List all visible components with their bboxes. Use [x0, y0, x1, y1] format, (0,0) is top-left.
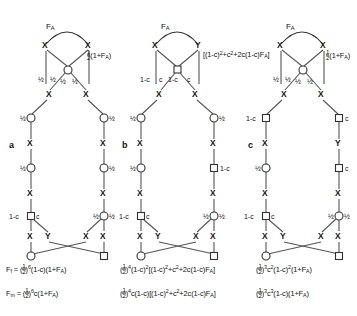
- panel-c-bottom-circle: [262, 252, 270, 260]
- panel-b-node-y-top: Y: [195, 40, 201, 50]
- panel-c-label-half-1: ½: [273, 76, 279, 83]
- panel-b-circle-right: [210, 114, 218, 122]
- panel-a-cross-x-2: X: [83, 231, 89, 241]
- panel-a-label-half-left-2: ½: [20, 165, 26, 172]
- panel-b-cross-x-3: X: [210, 231, 216, 241]
- panel-b-label-c: c: [146, 213, 150, 220]
- panel-a-label-half-lr-2: ½: [109, 213, 115, 220]
- panel-a-node-x-chain-left: X: [27, 138, 33, 148]
- panel-a-circle-left-2: [27, 164, 35, 172]
- panel-b-bottom-circle: [137, 252, 145, 260]
- panel-b-diagram: X Y X X 1-c c 1-c c ½ ½ X X ½ 1-c X: [118, 4, 248, 264]
- panel-c-label-c-right-2: c: [345, 165, 349, 172]
- panel-b-cross-y: Y: [155, 231, 161, 241]
- panel-b-node-x-chain-right: X: [210, 138, 216, 148]
- panel-a-formula-2: Fm = (12)6c(1+FA): [6, 288, 58, 299]
- panel-b-label-one-minus-c: 1-c: [119, 213, 129, 220]
- panel-a-label-half-right-2: ½: [109, 165, 115, 172]
- panel-c-label-c-right: c: [345, 115, 349, 122]
- panel-a-node-x-left: X: [42, 40, 48, 50]
- panel-b-label-half-lr-1: ½: [203, 213, 209, 220]
- panel-a-cross-x-3: X: [100, 231, 106, 241]
- panel-c-square-left-3: [263, 213, 270, 220]
- panel-a-center-circle: [64, 66, 72, 74]
- panel-b-square-left: [138, 213, 145, 220]
- panel-a-cross-y: Y: [45, 231, 51, 241]
- panel-a-edge-midright-out: [88, 100, 103, 114]
- panel-a-circle-left: [27, 114, 35, 122]
- panel-a-label-c: c: [36, 213, 40, 220]
- panel-c-label-half-lr-1: ½: [328, 213, 334, 220]
- panel-a-node-x-mid-left: X: [46, 89, 52, 99]
- panel-a-node-x-chain-right-2: X: [100, 188, 106, 198]
- panel-b-edge-midright-out: [197, 100, 213, 114]
- panel-a-edge-right-to-center: [69, 50, 88, 66]
- panel-a-label-half-3: ½: [60, 78, 66, 85]
- panel-b-node-x-chain-left: X: [137, 138, 143, 148]
- panel-a-square-left: [28, 213, 35, 220]
- panel-b-circle-left: [137, 114, 145, 122]
- panel-c-node-x-chain-left: X: [262, 138, 268, 148]
- panel-c-square-right: [336, 115, 343, 122]
- panel-c-formula-2: (12)3c3(1-c)(1+FA): [256, 288, 309, 299]
- panel-b-node-x-chain-left-2: X: [137, 188, 143, 198]
- panel-b-label-c-1: c: [159, 76, 163, 83]
- panel-b-node-x-mid-left: X: [156, 89, 162, 99]
- panel-b-label-c-2: c: [187, 76, 191, 83]
- panel-a-label-half-1: ½: [38, 76, 44, 83]
- panel-a-label-half-left: ½: [20, 115, 26, 122]
- panel-a-edge-midleft-out: [32, 100, 47, 114]
- panel-a-node-x-chain-left-2: X: [27, 188, 33, 198]
- panel-b-square-right-2: [211, 165, 218, 172]
- panel-b-formula-1: (12)4(1-c)2[(1-c)2+c2+2c(1-c)FA]: [120, 264, 215, 275]
- panel-b-label-1mc-right: 1-c: [220, 165, 230, 172]
- panel-a-node-x-chain-right: X: [100, 138, 106, 148]
- panel-b-bottom-square: [211, 253, 218, 260]
- panel-a-diagram: X X X X ½ ½ ½ ½ ½ ½ X X ½: [4, 4, 134, 264]
- panel-c-right-expression: 12(1+FA): [326, 50, 350, 61]
- panel-c-circle-right-3: [335, 212, 343, 220]
- panel-c-cross-x-2: X: [318, 231, 324, 241]
- panel-a-circle-right: [100, 114, 108, 122]
- panel-c-label-half-left-2: ½: [255, 165, 261, 172]
- panel-a-letter: a: [9, 140, 14, 150]
- panel-b-label-1mc-1: 1-c: [140, 76, 150, 83]
- panel-c-center-circle: [299, 66, 307, 74]
- panel-c-edge-left-to-center: [282, 50, 302, 66]
- panel-c-top-arc: [281, 32, 323, 44]
- panel-c-arc-label: FA: [286, 22, 295, 31]
- panel-a-arc-label: FA: [46, 22, 55, 31]
- panel-a-right-expression: 12(1+FA): [87, 50, 111, 61]
- panel-c-label-1mc-left: 1-c: [246, 115, 256, 122]
- panel-b-circle-left-2: [137, 164, 145, 172]
- panel-c-label-c: c: [271, 213, 275, 220]
- panel-c-edge-midright-out: [323, 100, 338, 114]
- panel-c-edge-right-to-center: [304, 50, 323, 66]
- panel-c-node-x-chain-left-2: X: [262, 188, 268, 198]
- panel-b-cross-x-1: X: [137, 231, 143, 241]
- panel-a-label-half-lr-1: ½: [93, 213, 99, 220]
- panel-a-top-arc: [46, 32, 88, 44]
- panel-a-bottom-square: [101, 253, 108, 260]
- panel-c-formula-1: (12)3c2(1-c)2(1+FA): [256, 264, 312, 275]
- panel-b-label-1mc-2: 1-c: [168, 76, 178, 83]
- panel-b-node-x-top: X: [152, 40, 158, 50]
- panel-c-label-half-lr-2: ½: [344, 213, 350, 220]
- panel-c-cross-x-1: X: [262, 231, 268, 241]
- panel-c-diagram: X X X X ½ ½ ½ ½ 1-c c X Y ½ c X X: [244, 4, 357, 264]
- panel-c-square-left: [263, 115, 270, 122]
- panel-b-node-x-mid-right: X: [192, 89, 198, 99]
- panel-a-circle-right-2: [100, 164, 108, 172]
- panel-b-formula-2: (12)4c(1-c)[(1-c)2+c2+2c(1-c)FA]: [120, 288, 216, 299]
- panel-b-edge-left-to-center: [157, 50, 176, 66]
- panel-b-edge-midleft-out: [142, 100, 157, 114]
- panel-c-cross-x-3: X: [335, 231, 341, 241]
- panel-b-arc-label: FA: [161, 22, 170, 31]
- panel-b-circle-right-3: [210, 212, 218, 220]
- panel-b-edge-right-to-center: [179, 50, 198, 66]
- panel-c-label-half-4: ½: [307, 78, 313, 85]
- panel-a-edge-left-to-center: [47, 50, 67, 66]
- panel-c-square-right-2: [336, 165, 343, 172]
- panel-a-label-half-4: ½: [72, 78, 78, 85]
- panel-a-label-half-right: ½: [109, 115, 115, 122]
